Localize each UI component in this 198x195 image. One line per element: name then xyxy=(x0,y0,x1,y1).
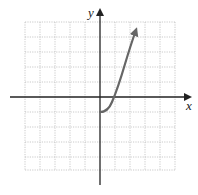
y-axis-label: y xyxy=(86,5,94,20)
x-axis-label: x xyxy=(185,98,192,113)
graph: x y xyxy=(0,0,198,195)
curve xyxy=(100,30,136,112)
